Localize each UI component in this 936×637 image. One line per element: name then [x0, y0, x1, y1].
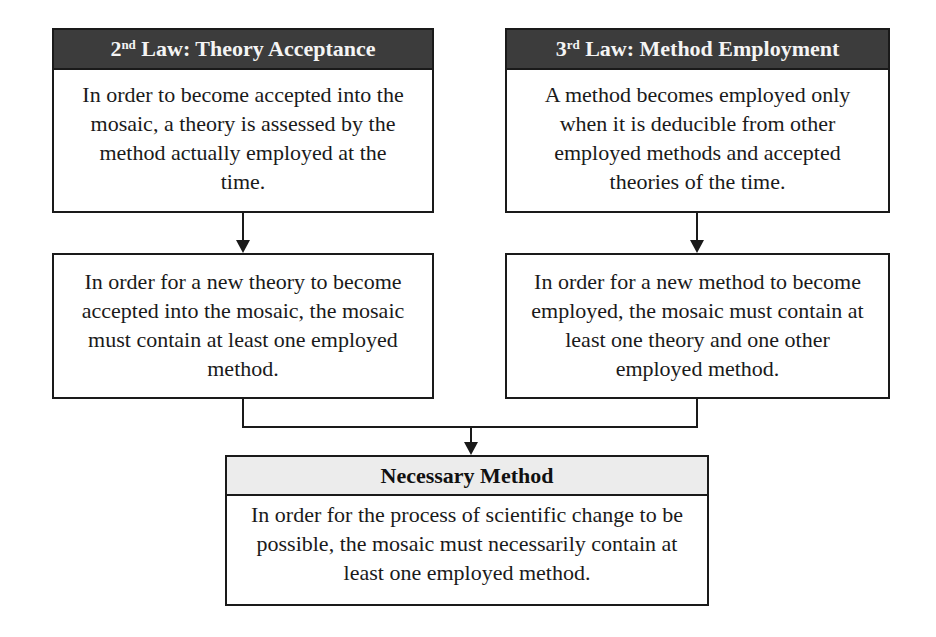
- necessary-method-text: In order for the process of scientific c…: [227, 496, 707, 587]
- second-law-title: Law: Theory Acceptance: [136, 36, 376, 61]
- second-law-number: 2: [110, 36, 121, 61]
- third-law-ordinal-suffix: rd: [567, 37, 580, 52]
- necessary-method-header: Necessary Method: [227, 457, 707, 496]
- arrow-down-icon: [690, 240, 704, 253]
- theory-acceptance-consequence-box: In order for a new theory to become acce…: [52, 253, 434, 399]
- third-law-box: 3rd Law: Method Employment A method beco…: [505, 28, 890, 213]
- connector-right-down: [696, 399, 698, 427]
- method-employment-consequence-text: In order for a new method to become empl…: [507, 255, 888, 383]
- third-law-text: A method becomes employed only when it i…: [507, 70, 888, 196]
- connector-left-down: [242, 399, 244, 427]
- arrow-down-icon: [464, 442, 478, 455]
- connector-center-down: [470, 426, 472, 443]
- second-law-header: 2nd Law: Theory Acceptance: [54, 30, 432, 70]
- second-law-ordinal-suffix: nd: [121, 37, 135, 52]
- third-law-number: 3: [556, 36, 567, 61]
- arrow-down-icon: [236, 240, 250, 253]
- necessary-method-box: Necessary Method In order for the proces…: [225, 455, 709, 606]
- second-law-text: In order to become accepted into the mos…: [54, 70, 432, 196]
- third-law-header: 3rd Law: Method Employment: [507, 30, 888, 70]
- second-law-box: 2nd Law: Theory Acceptance In order to b…: [52, 28, 434, 213]
- theory-acceptance-consequence-text: In order for a new theory to become acce…: [54, 255, 432, 383]
- third-law-title: Law: Method Employment: [580, 36, 840, 61]
- connector-right-top: [696, 213, 698, 241]
- method-employment-consequence-box: In order for a new method to become empl…: [505, 253, 890, 399]
- connector-left-top: [242, 213, 244, 241]
